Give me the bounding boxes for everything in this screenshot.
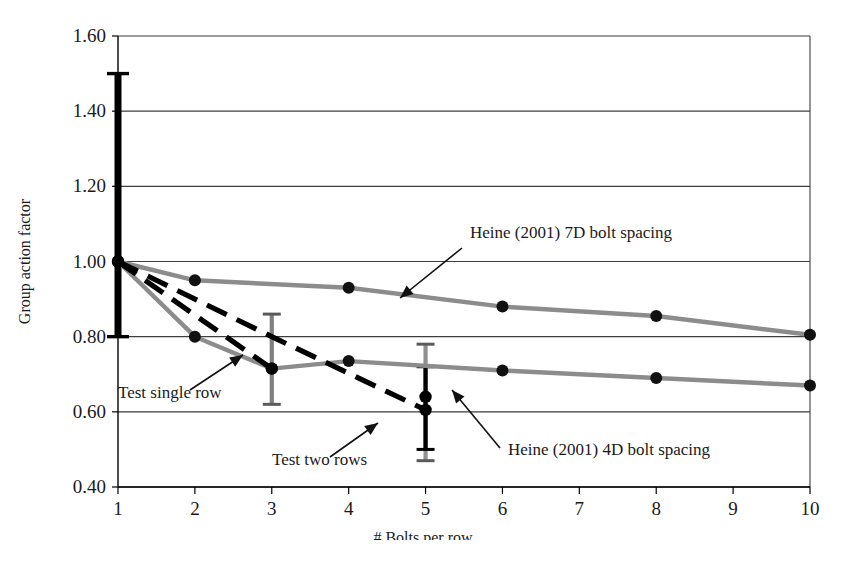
- annotation-test-single-row-arrowhead: [229, 355, 243, 367]
- xtick-label-2: 2: [190, 498, 200, 519]
- test-marker-2: [419, 404, 431, 416]
- annotation-test-two-rows-text: Test two rows: [272, 450, 367, 469]
- ytick-label-1.00: 1.00: [73, 251, 106, 272]
- chart-page: 0.400.600.801.001.201.401.6012345678910#…: [0, 0, 843, 576]
- error-bar-x1: [107, 74, 129, 337]
- annotation-heine-4d-arrowhead: [452, 390, 465, 404]
- xtick-label-9: 9: [728, 498, 738, 519]
- annotation-heine-4d: Heine (2001) 4D bolt spacing: [452, 390, 711, 459]
- xtick-label-10: 10: [801, 498, 820, 519]
- caption-strip: [0, 540, 843, 576]
- xtick-label-5: 5: [421, 498, 431, 519]
- series-1-marker-5: [650, 372, 662, 384]
- ytick-label-0.40: 0.40: [73, 476, 106, 497]
- series-0-marker-1: [189, 274, 201, 286]
- annotation-test-single-row-text: Test single row: [118, 383, 222, 402]
- chart-container: 0.400.600.801.001.201.401.6012345678910#…: [0, 0, 843, 540]
- series-0-marker-2: [343, 282, 355, 294]
- y-axis-title: Group action factor: [16, 198, 34, 324]
- error-bar-x3: [263, 314, 281, 404]
- test-marker-0: [112, 255, 124, 267]
- test-marker-1: [266, 362, 278, 374]
- annotation-test-two-rows-arrowhead: [364, 423, 378, 435]
- annotation-heine-4d-text: Heine (2001) 4D bolt spacing: [508, 440, 711, 459]
- series-line-0: [118, 262, 810, 335]
- series-0-marker-3: [496, 301, 508, 313]
- xtick-label-3: 3: [267, 498, 277, 519]
- ytick-label-1.60: 1.60: [73, 25, 106, 46]
- ytick-label-0.60: 0.60: [73, 401, 106, 422]
- ytick-label-1.20: 1.20: [73, 175, 106, 196]
- ytick-label-1.40: 1.40: [73, 100, 106, 121]
- annotation-test-two-rows: Test two rows: [272, 423, 378, 469]
- xtick-label-7: 7: [575, 498, 585, 519]
- series-1-marker-3: [343, 355, 355, 367]
- series-0-marker-4: [650, 310, 662, 322]
- xtick-label-1: 1: [113, 498, 123, 519]
- x-axis-title: # Bolts per row: [373, 529, 473, 540]
- ytick-label-0.80: 0.80: [73, 326, 106, 347]
- group-action-factor-chart: 0.400.600.801.001.201.401.6012345678910#…: [0, 0, 843, 540]
- annotation-test-single-row: Test single row: [118, 355, 243, 402]
- series-0-marker-5: [804, 329, 816, 341]
- annotation-heine-7d-text: Heine (2001) 7D bolt spacing: [470, 223, 673, 242]
- series-1-marker-1: [189, 331, 201, 343]
- series-1-marker-6: [804, 380, 816, 392]
- xtick-label-6: 6: [498, 498, 508, 519]
- series-1-marker-4: [496, 364, 508, 376]
- xtick-label-8: 8: [651, 498, 661, 519]
- xtick-label-4: 4: [344, 498, 354, 519]
- test-marker-3: [419, 391, 431, 403]
- annotation-heine-7d: Heine (2001) 7D bolt spacing: [400, 223, 673, 298]
